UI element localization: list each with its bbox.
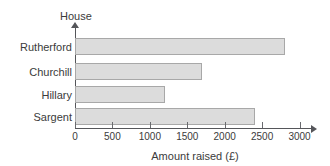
x-tick-0	[75, 122, 76, 128]
bar-rutherford	[75, 38, 285, 55]
category-label-sargent: Sargent	[33, 111, 72, 123]
x-tick-label-2000: 2000	[214, 131, 236, 142]
x-tick-label-500: 500	[104, 131, 121, 142]
x-tick-label-2500: 2500	[251, 131, 273, 142]
bar-churchill	[75, 63, 202, 80]
x-tick-500	[112, 122, 113, 128]
x-tick-2000	[225, 122, 226, 128]
x-tick-label-1500: 1500	[176, 131, 198, 142]
x-tick-1500	[187, 122, 188, 128]
y-axis-title: House	[60, 10, 92, 22]
category-label-churchill: Churchill	[29, 66, 72, 78]
x-axis-line	[75, 128, 313, 129]
x-tick-label-0: 0	[72, 131, 78, 142]
bar-hillary	[75, 86, 165, 103]
x-tick-1000	[150, 122, 151, 128]
category-label-rutherford: Rutherford	[20, 41, 72, 53]
x-tick-3000	[300, 122, 301, 128]
x-tick-2500	[262, 122, 263, 128]
x-tick-label-1000: 1000	[139, 131, 161, 142]
x-tick-label-3000: 3000	[288, 131, 310, 142]
category-label-hillary: Hillary	[41, 89, 72, 101]
x-axis-arrow-icon	[311, 125, 317, 133]
bar-sargent	[75, 108, 255, 125]
bar-chart: House RutherfordChurchillHillarySargent …	[0, 0, 330, 166]
x-axis-title: Amount raised (£)	[75, 150, 315, 162]
